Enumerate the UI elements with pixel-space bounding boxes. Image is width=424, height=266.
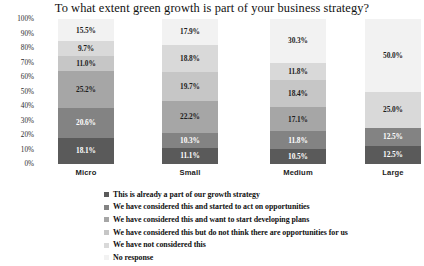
y-axis-tick: 60% [0,73,34,81]
legend-swatch-icon [104,205,109,210]
bar-segment[interactable]: 25.0% [365,92,421,128]
bar-segment-value: 17.9% [180,27,200,36]
bar-segment[interactable]: 9.7% [58,41,114,55]
stacked-bar: 50.0%25.0%12.5%12.5% [365,19,421,164]
y-axis-tick: 70% [0,59,34,67]
y-axis-tick: 30% [0,117,34,125]
bar-segment-value: 17.1% [288,115,308,124]
bar-segment[interactable]: 11.8% [270,63,326,80]
bar-segment-value: 25.2% [76,85,96,94]
bar-segment-value: 30.3% [288,36,308,45]
stacked-bar: 30.3%11.8%18.4%17.1%11.8%10.5% [270,19,326,164]
bar-segment[interactable]: 12.5% [365,146,421,164]
bar-segment[interactable]: 18.1% [58,138,114,164]
legend-label: This is already a part of our growth str… [113,190,260,199]
bar-segment-value: 20.6% [76,118,96,127]
legend-label: We have considered this and started to a… [113,202,310,211]
bar-segment[interactable]: 11.0% [58,56,114,72]
y-axis-tick: 10% [0,146,34,154]
legend-swatch-icon [104,217,109,222]
bar-segment-value: 12.5% [383,132,403,141]
y-axis-tick: 100% [0,15,34,23]
chart-legend: This is already a part of our growth str… [104,188,424,264]
bar-segment-value: 25.0% [383,105,403,114]
bar-segment-value: 10.3% [180,136,200,145]
legend-swatch-icon [104,255,109,260]
legend-label: No response [113,253,153,262]
legend-swatch-icon [104,192,109,197]
bar-segment[interactable]: 10.3% [162,133,218,148]
bar-column[interactable]: 17.9%18.8%19.7%22.2%10.3%11.1%Small [162,19,218,164]
y-axis: 100%90%80%70%60%50%40%30%20%10%0% [0,19,36,164]
bar-segment[interactable]: 19.7% [162,72,218,101]
bar-segment[interactable]: 17.1% [270,107,326,132]
bar-segment-value: 18.4% [288,89,308,98]
bar-segment-value: 50.0% [383,51,403,60]
legend-item[interactable]: We have considered this and want to star… [104,213,424,226]
stacked-bar: 17.9%18.8%19.7%22.2%10.3%11.1% [162,19,218,164]
y-axis-tick: 50% [0,88,34,96]
legend-label: We have considered this but do not think… [113,228,348,237]
bar-column[interactable]: 15.5%9.7%11.0%25.2%20.6%18.1%Micro [58,19,114,164]
legend-swatch-icon [104,243,109,248]
y-axis-tick: 40% [0,102,34,110]
chart-title: To what extent green growth is part of y… [0,1,424,16]
category-label: Medium [270,168,326,177]
bar-segment[interactable]: 22.2% [162,101,218,133]
bar-segment[interactable]: 12.5% [365,128,421,146]
bar-segment[interactable]: 18.8% [162,45,218,72]
bar-segment-value: 11.8% [288,136,307,145]
bar-group: 15.5%9.7%11.0%25.2%20.6%18.1%Micro17.9%1… [38,19,424,164]
y-axis-tick: 80% [0,44,34,52]
y-axis-tick: 20% [0,131,34,139]
bar-segment[interactable]: 20.6% [58,108,114,138]
category-label: Large [365,168,421,177]
bar-segment[interactable]: 15.5% [58,19,114,41]
legend-label: We have considered this and want to star… [113,215,309,224]
bar-segment-value: 11.0% [76,59,95,68]
bar-segment[interactable]: 18.4% [270,80,326,107]
bar-segment-value: 9.7% [78,44,94,53]
bar-segment-value: 22.2% [180,112,200,121]
legend-item[interactable]: We have considered this but do not think… [104,226,424,239]
legend-item[interactable]: This is already a part of our growth str… [104,188,424,201]
legend-item[interactable]: No response [104,251,424,264]
bar-segment[interactable]: 11.1% [162,148,218,164]
bar-segment-value: 19.7% [180,82,200,91]
category-label: Micro [58,168,114,177]
bar-segment[interactable]: 50.0% [365,19,421,92]
bar-segment-value: 15.5% [76,26,96,35]
bar-segment-value: 11.8% [288,67,307,76]
bar-segment-value: 11.1% [180,151,199,160]
legend-swatch-icon [104,230,109,235]
bar-segment-value: 18.8% [180,54,200,63]
bar-segment-value: 18.1% [76,146,96,155]
legend-label: We have not considered this [113,240,206,249]
chart-container: To what extent green growth is part of y… [0,0,424,266]
y-axis-tick: 0% [0,160,34,168]
bar-segment[interactable]: 11.8% [270,131,326,148]
bar-column[interactable]: 30.3%11.8%18.4%17.1%11.8%10.5%Medium [270,19,326,164]
bar-segment[interactable]: 30.3% [270,19,326,63]
bar-segment-value: 12.5% [383,150,403,159]
bar-segment[interactable]: 25.2% [58,71,114,108]
bar-segment-value: 10.5% [288,152,308,161]
y-axis-tick: 90% [0,30,34,38]
bar-column[interactable]: 50.0%25.0%12.5%12.5%Large [365,19,421,164]
stacked-bar: 15.5%9.7%11.0%25.2%20.6%18.1% [58,19,114,164]
legend-item[interactable]: We have not considered this [104,238,424,251]
plot-area: 100%90%80%70%60%50%40%30%20%10%0% 15.5%9… [0,19,424,164]
legend-item[interactable]: We have considered this and started to a… [104,201,424,214]
bar-segment[interactable]: 17.9% [162,19,218,45]
category-label: Small [162,168,218,177]
bar-segment[interactable]: 10.5% [270,149,326,164]
